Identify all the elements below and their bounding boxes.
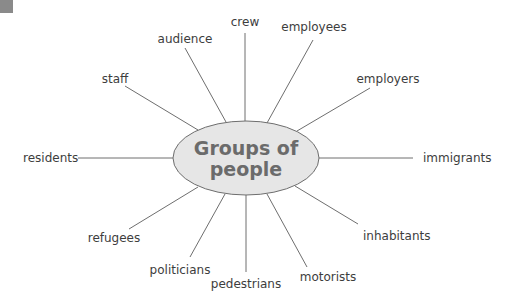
hub-title-line2: people	[210, 158, 283, 180]
spider-diagram: Groups of people crewemployeesemployersi…	[0, 0, 506, 305]
hub: Groups of people	[173, 121, 319, 195]
spoke-label-crew: crew	[231, 15, 260, 29]
spoke-label-audience: audience	[158, 32, 213, 46]
spoke-label-residents: residents	[23, 151, 78, 165]
spoke-label-employees: employees	[281, 20, 346, 34]
spoke-label-staff: staff	[102, 72, 129, 86]
hub-title-line1: Groups of	[194, 137, 299, 159]
spoke-line-employers	[297, 88, 370, 131]
spoke-line-staff	[125, 86, 198, 130]
spoke-label-inhabitants: inhabitants	[363, 229, 430, 243]
spoke-label-employers: employers	[356, 72, 419, 86]
spoke-label-politicians: politicians	[150, 263, 211, 277]
spoke-line-inhabitants	[295, 186, 358, 224]
spoke-line-motorists	[267, 194, 307, 267]
spoke-line-refugees	[129, 187, 198, 229]
spoke-line-employees	[267, 40, 313, 123]
spoke-label-immigrants: immigrants	[423, 151, 492, 165]
spoke-label-refugees: refugees	[88, 231, 141, 245]
spoke-label-motorists: motorists	[300, 270, 357, 284]
spoke-label-pedestrians: pedestrians	[211, 277, 281, 291]
spoke-line-politicians	[190, 194, 225, 257]
spoke-line-audience	[185, 48, 226, 122]
